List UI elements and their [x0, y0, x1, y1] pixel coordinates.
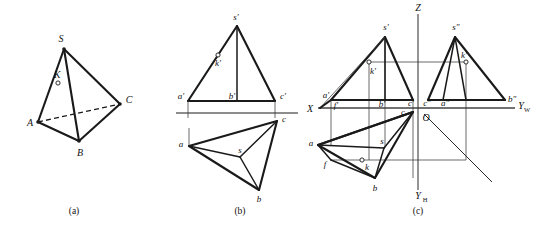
label-k-dprime: k′ — [461, 50, 468, 60]
figure-root: S A B C K (a) s′ k′ a′ b′ c′ — [0, 0, 538, 236]
panel-b-two-view-projection: s′ k′ a′ b′ c′ a b c s (b) — [170, 0, 310, 236]
fv-edge-sc — [237, 26, 275, 101]
label-b-dprime: b″ — [508, 94, 517, 104]
edge-bc — [79, 104, 120, 141]
label-B: B — [77, 147, 83, 158]
label-a-prime: a′ — [323, 90, 331, 100]
sv-edge-sb — [455, 37, 505, 100]
fv-edge-sc — [385, 37, 413, 100]
label-s: s — [238, 145, 242, 155]
point-k-marker — [56, 81, 60, 85]
fv-point-k-marker — [216, 53, 220, 57]
label-k-prime: k′ — [370, 66, 377, 76]
fv-edge-sa — [188, 26, 237, 101]
label-b: b — [373, 183, 378, 193]
vertex-s-dot — [62, 47, 66, 51]
label-a-prime: a′ — [178, 91, 186, 101]
origin-label-o: O — [422, 112, 429, 123]
axis-label-yh-subscript: H — [423, 196, 428, 203]
axis-label-x: X — [306, 103, 314, 114]
edge-ab — [38, 122, 79, 141]
label-a: a — [309, 138, 314, 148]
sv-edge-sc — [455, 37, 466, 100]
vertex-a-dot — [36, 120, 40, 124]
label-s-dprime: s″ — [452, 22, 460, 32]
fv-point-k-marker — [367, 60, 371, 64]
fv-edge-af — [320, 100, 331, 108]
label-c-prime: c′ — [280, 91, 287, 101]
label-k: k — [365, 162, 370, 172]
label-f: f — [324, 159, 328, 169]
label-a: a — [179, 139, 184, 149]
miter-line-45deg — [424, 114, 492, 182]
tv-edge-as — [318, 145, 384, 148]
label-k-prime: k′ — [215, 58, 222, 68]
vertex-c-dot — [118, 102, 122, 106]
axis-label-yw-subscript: W — [524, 106, 531, 113]
label-c: c — [282, 114, 286, 124]
tv-edge-cb — [259, 121, 277, 190]
caption-a: (a) — [69, 206, 80, 217]
vertex-b-dot — [77, 139, 81, 143]
label-b: b — [257, 194, 262, 204]
label-s: s — [380, 136, 384, 146]
tv-point-k-marker — [360, 158, 364, 162]
label-C: C — [126, 94, 133, 105]
axis-label-yh: Y — [415, 190, 422, 201]
fv-edge-sa — [331, 37, 385, 100]
sv-point-k-marker — [464, 60, 468, 64]
label-A: A — [26, 117, 34, 128]
edge-sa — [38, 49, 64, 122]
caption-c: (c) — [413, 206, 424, 217]
sv-edge-sa — [428, 37, 455, 100]
sv-edge-inner — [443, 37, 455, 100]
label-s-prime: s′ — [383, 22, 390, 32]
caption-b: (b) — [234, 206, 245, 217]
panel-a-pictorial-view: S A B C K (a) — [0, 0, 170, 236]
label-c-prime: c′ — [408, 98, 415, 108]
label-S: S — [59, 33, 64, 44]
label-c: c — [401, 107, 405, 117]
label-K: K — [53, 69, 62, 80]
label-s-prime: s′ — [233, 12, 240, 22]
label-c-dprime: c″ — [423, 98, 431, 108]
tv-edge-ab — [189, 146, 259, 190]
label-a-dprime: a″ — [441, 98, 450, 108]
panel-c-three-view-projection: s′ k′ a′ b′ c′ f′ s″ k′ a″ b″ c″ a b c s… — [300, 0, 538, 236]
axis-label-z: Z — [415, 2, 421, 13]
label-b-prime: b′ — [229, 91, 237, 101]
label-b-prime: b′ — [379, 99, 387, 109]
edge-ac-hidden — [38, 104, 120, 122]
